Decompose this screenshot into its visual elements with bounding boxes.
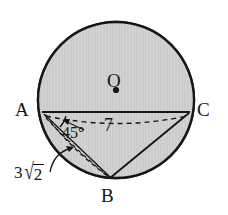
- vertex-label-o: O: [107, 71, 121, 90]
- vertex-label-a: A: [15, 100, 29, 119]
- radical-expression: √2: [23, 164, 45, 183]
- radical-coefficient: 3: [14, 164, 23, 181]
- geometry-figure: A C B O 7 45° 3 √2: [0, 0, 228, 215]
- angle-measure-label: 45°: [62, 125, 84, 141]
- side-length-ac-label: 7: [104, 116, 113, 134]
- vertex-label-c: C: [197, 100, 210, 119]
- side-length-ab-label: 3 √2: [14, 164, 44, 183]
- vertex-label-b: B: [101, 186, 114, 205]
- radical-radicand: 2: [33, 164, 45, 183]
